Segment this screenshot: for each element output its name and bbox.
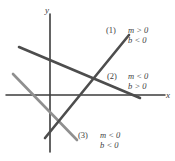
line-1	[45, 35, 129, 138]
line-1-tag: (1)	[106, 26, 116, 35]
line-2	[19, 47, 140, 98]
line-1-intercept-condition: b < 0	[128, 35, 148, 45]
line-3-conditions: m < 0 b < 0	[100, 130, 120, 151]
line-3-tag: (3)	[78, 131, 88, 140]
x-axis-label: x	[166, 91, 170, 100]
line-3-slope-condition: m < 0	[100, 130, 120, 140]
line-2-slope-condition: m < 0	[128, 71, 148, 81]
line-2-intercept-condition: b > 0	[128, 81, 148, 91]
line-1-slope-condition: m > 0	[128, 25, 148, 35]
line-3	[13, 74, 77, 140]
line-3-intercept-condition: b < 0	[100, 140, 120, 150]
y-axis-label: y	[45, 6, 49, 15]
line-2-conditions: m < 0 b > 0	[128, 71, 148, 92]
line-slope-intercept-figure: y x (1) m > 0 b < 0 (2) m < 0 b > 0 (3) …	[0, 0, 175, 161]
line-1-conditions: m > 0 b < 0	[128, 25, 148, 46]
line-2-tag: (2)	[107, 72, 117, 81]
